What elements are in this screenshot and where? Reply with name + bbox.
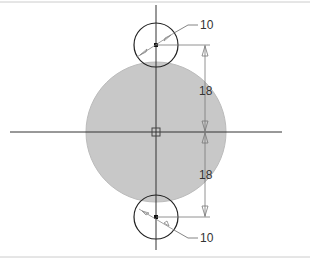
upper-distance-label[interactable]: 18 (199, 84, 213, 98)
bottom-diameter-label[interactable]: 10 (200, 231, 214, 245)
lower-distance-label[interactable]: 18 (199, 168, 213, 182)
top-diameter-label[interactable]: 10 (200, 18, 214, 32)
sketch-canvas: 10 10 18 18 (0, 0, 310, 269)
